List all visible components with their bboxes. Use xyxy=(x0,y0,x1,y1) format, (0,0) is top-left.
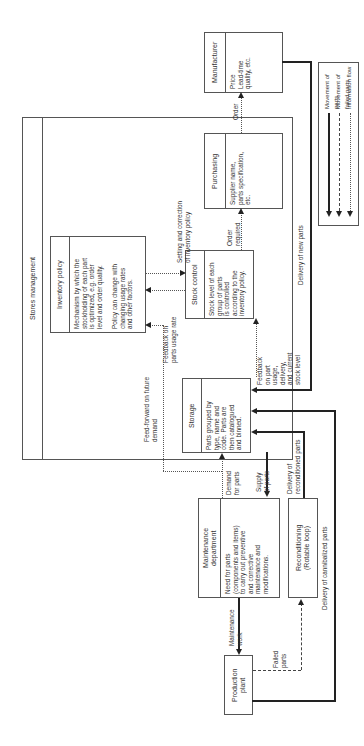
connector-reconditioned-vertical xyxy=(303,431,305,498)
connector-new-parts-to-storage xyxy=(256,389,312,391)
manufacturer-body: Price Lead-time quality, etc. xyxy=(229,37,252,89)
legend-label-dotted: Information flow xyxy=(345,65,354,109)
maintenance-department-body: Need for parts (components and items) to… xyxy=(224,502,270,594)
label-delivery-new-parts: Delivery of new parts xyxy=(297,205,305,285)
connector-cannibalized-vertical xyxy=(334,410,336,702)
legend-solid-arrow-icon xyxy=(326,211,332,217)
legend-solid-line xyxy=(328,113,330,211)
connector-failed-parts-v xyxy=(301,603,302,670)
stores-management-header: Stores management xyxy=(23,118,43,459)
legend-dotted-line xyxy=(350,113,351,211)
stores-management-title: Stores management xyxy=(23,118,43,459)
manufacturer-box: Manufacturer Price Lead-time quality, et… xyxy=(204,32,283,93)
stock-control-box: Stock control Stock level of each group … xyxy=(185,250,254,319)
arrow-cannibalized-icon xyxy=(251,408,257,414)
purchasing-box: Purchasing Supplier name, parts specific… xyxy=(204,133,283,209)
label-order-required: Order required xyxy=(226,214,241,246)
maintenance-department-header: Maintenance department xyxy=(199,499,221,597)
storage-box: Storage Parts grouped by type, name and … xyxy=(182,378,251,453)
maintenance-department-title: Maintenance department xyxy=(199,499,220,597)
label-failed-parts: Failed parts xyxy=(272,640,287,668)
inventory-policy-header: Inventory policy xyxy=(51,237,70,332)
connector-manufacturer-right xyxy=(282,61,312,63)
connector-setting-correction xyxy=(146,273,183,274)
arrow-feed-forward-icon xyxy=(145,322,151,328)
label-feedback-stock: Feedback on part usage, delivery, and cu… xyxy=(256,325,302,385)
connector-new-parts-vertical xyxy=(310,61,312,391)
production-plant-box: Production plant xyxy=(224,655,253,715)
storage-header: Storage xyxy=(183,379,202,452)
label-demand-for-parts: Demand for parts xyxy=(225,461,240,495)
label-feedback-usage-rate: Feedback on parts usage rate xyxy=(162,303,177,363)
manufacturer-title: Manufacturer xyxy=(205,33,225,92)
connector-feed-forward-vertical xyxy=(163,325,164,471)
legend-dashed-line xyxy=(339,113,340,211)
connector-feed-forward-bottom xyxy=(163,471,222,472)
inventory-policy-title: Inventory policy xyxy=(51,237,69,332)
legend-dotted-arrow-icon xyxy=(347,211,353,217)
inventory-policy-body: Mechanism by which the stockholding of e… xyxy=(73,241,134,329)
label-setting-correction: Setting and correction of inventory poli… xyxy=(176,183,191,263)
arrow-new-parts-icon xyxy=(251,387,257,393)
arrow-setting-correction-icon xyxy=(180,270,186,276)
legend-dashed-arrow-icon xyxy=(336,211,342,217)
label-delivery-cannibalized: Delivery of cannibalized parts xyxy=(321,500,329,610)
arrow-failed-parts-icon xyxy=(298,599,304,605)
stock-control-body: Stock level of each group of parts is co… xyxy=(208,254,246,316)
purchasing-header: Purchasing xyxy=(205,134,226,208)
arrow-feedback-stock-icon xyxy=(253,318,259,324)
legend-box: Movement of parts Movement of failed par… xyxy=(318,62,359,226)
label-supply-of-parts: Supply of parts xyxy=(255,458,270,492)
reconditioning-box: Reconditioning (Rotable loop) xyxy=(288,498,318,598)
arrow-demand-for-parts-icon xyxy=(219,453,225,459)
connector-feed-forward-top xyxy=(149,325,163,326)
inventory-policy-box: Inventory policy Mechanism by which the … xyxy=(50,236,146,333)
production-plant-title: Production plant xyxy=(225,656,252,714)
storage-title: Storage xyxy=(183,379,201,452)
arrow-feedback-usage-rate-icon xyxy=(145,287,151,293)
arrow-reconditioned-icon xyxy=(251,429,257,435)
connector-reconditioned-to-storage xyxy=(256,431,305,433)
label-maintenance-work: Maintenance work xyxy=(228,602,243,646)
manufacturer-header: Manufacturer xyxy=(205,33,226,92)
label-delivery-reconditioned: Delivery of reconditioned parts xyxy=(286,434,301,494)
purchasing-title: Purchasing xyxy=(205,134,225,208)
label-order: Order xyxy=(232,96,240,120)
connector-order xyxy=(241,95,242,133)
connector-feedback-usage-rate xyxy=(149,290,185,291)
purchasing-body: Supplier name, parts specification, etc. xyxy=(229,137,252,205)
connector-cannibalized-plant xyxy=(252,700,336,702)
label-feed-forward: Feed-forward on future demand xyxy=(143,360,158,442)
arrow-maintenance-work-icon xyxy=(236,649,242,655)
maintenance-department-box: Maintenance department Need for parts (c… xyxy=(198,498,280,598)
reconditioning-title: Reconditioning (Rotable loop) xyxy=(289,499,317,597)
connector-cannibalized-to-storage xyxy=(256,410,336,412)
connector-demand-for-parts xyxy=(222,456,223,498)
connector-failed-parts-h xyxy=(253,670,301,671)
storage-body: Parts grouped by type, name and code. Pa… xyxy=(205,382,243,450)
